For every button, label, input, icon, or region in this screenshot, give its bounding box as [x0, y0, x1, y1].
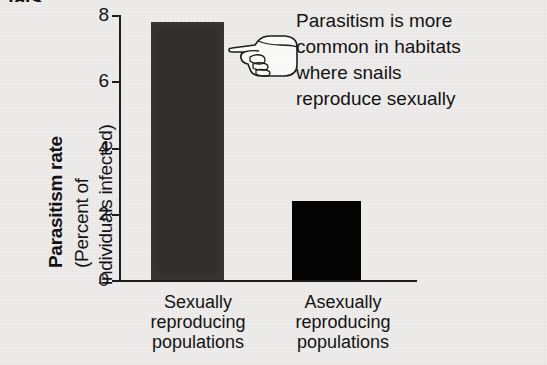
y-axis-subtitle-line-1: (Percent of — [72, 178, 91, 268]
y-tick-label: 2 — [98, 203, 109, 225]
y-axis-title: Parasitism rate — [46, 136, 65, 268]
y-tick-label: 4 — [98, 137, 109, 159]
figure-canvas: tats. Parasitism rate (Percent of indivi… — [0, 0, 547, 365]
y-tick-mark — [112, 148, 120, 150]
y-tick-mark — [112, 214, 120, 216]
x-category-label-1: Sexually reproducing populations — [118, 292, 278, 352]
y-axis-label-group: Parasitism rate (Percent of individuals … — [0, 0, 100, 290]
y-tick-label: 8 — [98, 4, 109, 26]
annotation-text: Parasitism is more common in habitats wh… — [296, 8, 544, 112]
bar-1 — [151, 22, 224, 280]
x-category-label-2: Asexually reproducing populations — [258, 292, 428, 352]
pointing-hand-left-icon — [228, 33, 300, 79]
bar-2 — [292, 201, 361, 281]
x-axis-line — [119, 280, 417, 282]
y-tick-label: 0 — [98, 269, 109, 291]
y-tick-label: 6 — [98, 70, 109, 92]
y-tick-mark — [112, 280, 120, 282]
y-tick-mark — [112, 81, 120, 83]
y-tick-mark — [112, 15, 120, 17]
